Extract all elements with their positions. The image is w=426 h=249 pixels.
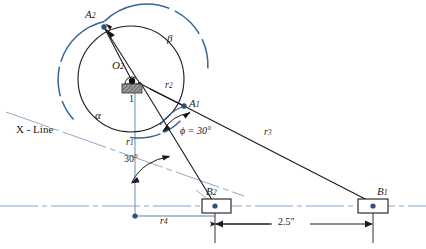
slider-block-b2 [202,199,231,213]
label-r3: r3 [264,127,272,137]
coupler-r3-from-a2 [104,27,140,84]
joint-dot-a1 [181,103,186,108]
label-point-b2: B2 [206,186,217,197]
coupler-r3-position2 [140,82,214,203]
label-angle-phi: ϕ = 30° [180,126,211,136]
label-pivot-o2: O2 [112,60,124,71]
label-point-b1: B1 [377,186,388,197]
joint-dot-a2 [101,24,106,29]
figure-canvas: O2 1 A1 A2 B1 B2 r1 r2 r3 r4 α β ϕ = 30°… [0,0,426,249]
ground-pivot-symbol [122,77,142,93]
label-r2: r2 [165,80,173,90]
label-point-a2: A2 [85,9,96,20]
label-ground-link-1: 1 [129,94,134,104]
linkage-diagram-svg [0,0,426,249]
crank-r2-position2 [104,27,131,79]
slider-block-b1 [358,199,388,213]
label-x-line: X - Line [16,124,53,135]
label-beta: β [167,33,172,44]
label-alpha: α [95,110,101,121]
label-dimension-2p5: 2.5" [278,217,295,227]
label-r4: r4 [160,216,168,226]
label-r1: r1 [126,137,134,147]
label-point-a1: A1 [189,98,200,109]
label-angle-30: 30° [124,154,138,164]
